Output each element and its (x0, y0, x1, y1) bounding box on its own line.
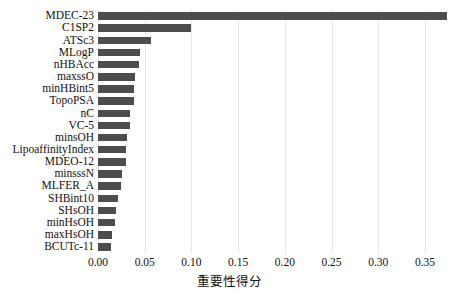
bar-VC-5 (98, 122, 130, 130)
bar-MLogP (98, 49, 140, 57)
plot-area (98, 10, 453, 253)
x-tick-label: 0.00 (88, 256, 108, 268)
x-tick-label: 0.30 (368, 256, 388, 268)
bar-row (98, 10, 453, 22)
bar-MDEO-12 (98, 158, 126, 166)
bar-row (98, 34, 453, 46)
bar-row (98, 71, 453, 83)
y-tick-label: MLFER_A (0, 180, 94, 192)
y-tick-label: minsOH (0, 132, 94, 144)
y-tick-label: nHBAcc (0, 59, 94, 71)
bar-nHBAcc (98, 61, 139, 69)
bar-series (98, 10, 453, 253)
bar-minHsOH (98, 219, 115, 227)
x-tick-label: 0.05 (135, 256, 155, 268)
x-axis-tick-labels: 0.000.050.100.150.200.250.300.35 (0, 256, 458, 270)
y-tick-label: SHsOH (0, 205, 94, 217)
y-tick-label: MDEO-12 (0, 156, 94, 168)
y-tick-label: MLogP (0, 47, 94, 59)
bar-SHsOH (98, 207, 116, 215)
bar-C1SP2 (98, 24, 191, 32)
bar-maxHsOH (98, 231, 112, 239)
y-tick-label: VC-5 (0, 120, 94, 132)
y-axis-tick-labels: MDEC-23C1SP2ATSc3MLogPnHBAccmaxssOminHBi… (0, 10, 94, 253)
bar-minHBint5 (98, 85, 134, 93)
y-tick-label: minsssN (0, 168, 94, 180)
y-tick-label: minHsOH (0, 217, 94, 229)
bar-TopoPSA (98, 97, 134, 105)
bar-row (98, 168, 453, 180)
bar-MDEC-23 (98, 12, 447, 20)
y-tick-label: maxssO (0, 71, 94, 83)
bar-row (98, 241, 453, 253)
bar-chart-figure: MDEC-23C1SP2ATSc3MLogPnHBAccmaxssOminHBi… (0, 0, 458, 295)
x-axis-title: 重要性得分 (0, 275, 458, 289)
bar-row (98, 83, 453, 95)
x-tick-label: 0.20 (275, 256, 295, 268)
bar-row (98, 204, 453, 216)
bar-row (98, 180, 453, 192)
y-tick-label: maxHsOH (0, 229, 94, 241)
bar-row (98, 119, 453, 131)
y-tick-label: MDEC-23 (0, 10, 94, 22)
y-tick-label: LipoaffinityIndex (0, 144, 94, 156)
bar-row (98, 217, 453, 229)
y-tick-label: minHBint5 (0, 83, 94, 95)
bar-maxssO (98, 73, 135, 81)
bar-ATSc3 (98, 37, 151, 45)
bar-row (98, 192, 453, 204)
bar-LipoaffinityIndex (98, 146, 126, 154)
bar-row (98, 132, 453, 144)
bar-SHBint10 (98, 195, 118, 203)
y-tick-label: SHBint10 (0, 193, 94, 205)
x-tick-label: 0.35 (415, 256, 435, 268)
bar-row (98, 22, 453, 34)
bar-minsssN (98, 170, 122, 178)
cropped-chart-title (200, 0, 350, 4)
y-tick-label: nC (0, 108, 94, 120)
bar-row (98, 144, 453, 156)
bar-row (98, 95, 453, 107)
bar-row (98, 156, 453, 168)
bar-BCUTc-11 (98, 243, 111, 251)
bar-nC (98, 110, 130, 118)
x-tick-label: 0.25 (321, 256, 341, 268)
y-tick-label: TopoPSA (0, 95, 94, 107)
bar-row (98, 46, 453, 58)
y-tick-label: C1SP2 (0, 22, 94, 34)
y-tick-label: ATSc3 (0, 35, 94, 47)
bar-row (98, 107, 453, 119)
bar-MLFER_A (98, 182, 121, 190)
y-tick-label: BCUTc-11 (0, 241, 94, 253)
bar-minsOH (98, 134, 127, 142)
x-tick-label: 0.10 (181, 256, 201, 268)
bar-row (98, 229, 453, 241)
bar-row (98, 59, 453, 71)
x-tick-label: 0.15 (228, 256, 248, 268)
